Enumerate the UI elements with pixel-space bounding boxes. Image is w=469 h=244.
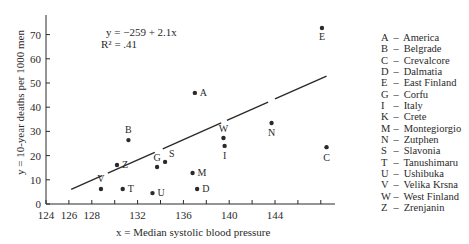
legend-name: Slavonia bbox=[401, 145, 440, 156]
legend-item: B– Belgrade bbox=[381, 43, 461, 54]
x-tick-label: 124 bbox=[38, 209, 55, 221]
legend-key: G bbox=[381, 89, 391, 100]
point-label: C bbox=[323, 152, 330, 163]
legend-key: W bbox=[381, 191, 391, 202]
y-tick-label: 20 bbox=[30, 150, 42, 162]
regression-segment bbox=[163, 123, 221, 149]
legend-separator: – bbox=[391, 191, 401, 202]
point-marker bbox=[324, 145, 328, 149]
legend-key: C bbox=[381, 55, 391, 66]
point-marker bbox=[121, 187, 125, 191]
legend-separator: – bbox=[391, 134, 401, 145]
point-label: M bbox=[198, 167, 207, 178]
data-point-n: N bbox=[268, 121, 275, 138]
point-marker bbox=[195, 187, 199, 191]
data-point-s: S bbox=[163, 148, 175, 164]
data-point-c: C bbox=[323, 145, 330, 163]
data-point-a: A bbox=[193, 87, 208, 98]
data-point-w: W bbox=[219, 123, 229, 140]
point-marker bbox=[190, 171, 194, 175]
point-label: A bbox=[200, 87, 208, 98]
point-label: Z bbox=[122, 159, 128, 170]
x-tick-label: 132 bbox=[129, 209, 146, 221]
regression-equation: y = −259 + 2.1x bbox=[106, 26, 177, 38]
legend-item: D– Dalmatia bbox=[381, 66, 461, 77]
point-marker bbox=[222, 144, 226, 148]
legend-name: Crevalcore bbox=[401, 55, 450, 66]
data-point-i: I bbox=[222, 144, 226, 161]
point-label: G bbox=[153, 152, 160, 163]
data-point-t: T bbox=[121, 183, 134, 194]
x-tick-label: 126 bbox=[61, 209, 78, 221]
legend-item: I– Italy bbox=[381, 100, 461, 111]
legend-name: Zutphen bbox=[401, 134, 439, 145]
x-tick-label: 144 bbox=[267, 209, 284, 221]
regression-segment bbox=[108, 152, 155, 173]
x-axis-label: x = Median systolic blood pressure bbox=[116, 226, 270, 238]
legend-separator: – bbox=[391, 157, 401, 168]
legend-key: U bbox=[381, 168, 391, 179]
legend-separator: – bbox=[391, 77, 401, 88]
point-marker bbox=[115, 163, 119, 167]
point-marker bbox=[155, 165, 159, 169]
point-label: T bbox=[128, 183, 134, 194]
y-tick-label: 60 bbox=[30, 53, 42, 65]
point-label: W bbox=[219, 123, 229, 134]
legend-key: M bbox=[381, 123, 391, 134]
legend-name: Zrenjanin bbox=[401, 202, 444, 213]
legend-separator: – bbox=[391, 43, 401, 54]
legend-item: K– Crete bbox=[381, 111, 461, 122]
legend-separator: – bbox=[391, 89, 401, 100]
point-label: S bbox=[169, 148, 175, 159]
legend-separator: – bbox=[391, 100, 401, 111]
y-tick-label: 70 bbox=[30, 29, 42, 41]
y-axis-label: y = 10-year deaths per 1000 men bbox=[14, 30, 26, 175]
y-tick-label: 40 bbox=[30, 101, 42, 113]
legend-key: D bbox=[381, 66, 391, 77]
regression-segment bbox=[227, 102, 268, 120]
legend-separator: – bbox=[391, 55, 401, 66]
legend-separator: – bbox=[391, 32, 401, 43]
point-label: V bbox=[97, 173, 105, 184]
legend-name: America bbox=[401, 32, 439, 43]
point-label: I bbox=[223, 150, 226, 161]
point-marker bbox=[150, 191, 154, 195]
point-marker bbox=[163, 160, 167, 164]
legend-name: Italy bbox=[401, 100, 423, 111]
legend-name: West Finland bbox=[401, 191, 459, 202]
y-tick-label: 0 bbox=[36, 198, 42, 210]
legend-separator: – bbox=[391, 145, 401, 156]
point-label: U bbox=[157, 187, 165, 198]
legend-name: Belgrade bbox=[401, 43, 442, 54]
legend-item: U– Ushibuka bbox=[381, 168, 461, 179]
legend-key: Z bbox=[381, 202, 391, 213]
data-point-g: G bbox=[153, 152, 160, 169]
legend-item: T– Tanushimaru bbox=[381, 157, 461, 168]
legend-key: N bbox=[381, 134, 391, 145]
x-tick-label: 128 bbox=[84, 209, 101, 221]
tick-marks: 124126128132136140144010203040506070 bbox=[30, 29, 321, 221]
legend-item: S– Slavonia bbox=[381, 145, 461, 156]
data-point-v: V bbox=[97, 173, 105, 191]
legend-key: B bbox=[381, 43, 391, 54]
legend-name: Ushibuka bbox=[401, 168, 444, 179]
legend-item: G– Corfu bbox=[381, 89, 461, 100]
point-marker bbox=[126, 138, 130, 142]
legend-item: M– Montegiorgio bbox=[381, 123, 461, 134]
point-label: E bbox=[319, 31, 325, 42]
data-points: ABCDEGIMNSTUVWZ bbox=[97, 26, 330, 198]
x-tick-label: 136 bbox=[175, 209, 192, 221]
data-point-z: Z bbox=[115, 159, 128, 170]
legend-item: V– Velika Krsna bbox=[381, 179, 461, 190]
legend-separator: – bbox=[391, 179, 401, 190]
data-point-u: U bbox=[150, 187, 165, 198]
legend-key: I bbox=[381, 100, 391, 111]
legend-key: E bbox=[381, 77, 391, 88]
x-tick-label: 140 bbox=[221, 209, 238, 221]
y-tick-label: 30 bbox=[30, 125, 42, 137]
data-point-b: B bbox=[125, 124, 132, 142]
legend-key: V bbox=[381, 179, 391, 190]
legend-name: East Finland bbox=[401, 77, 456, 88]
point-label: N bbox=[268, 127, 275, 138]
data-point-m: M bbox=[190, 167, 206, 178]
